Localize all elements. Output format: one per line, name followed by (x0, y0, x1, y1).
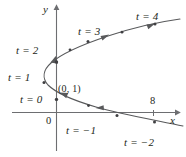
label-t-0: t = 0 (20, 94, 42, 105)
point-mid-1-2 (121, 31, 124, 34)
curve-direction-arrows (50, 23, 155, 110)
parametric-curve-figure: y x 0 8 (0, 1) t = 4 t = 3 t = 2 t = 1 t… (0, 0, 186, 157)
point-t-3 (87, 40, 90, 43)
point-annotation-0-1: (0, 1) (58, 84, 81, 94)
x-tick-label-8: 8 (150, 96, 155, 107)
label-t-2: t = 2 (16, 45, 38, 56)
point-t-minus-1 (116, 114, 119, 117)
curve-path (44, 19, 183, 126)
x-axis-label: x (170, 115, 175, 126)
point-mid-2-3 (87, 104, 90, 107)
label-t-3: t = 3 (78, 26, 100, 37)
label-t-1: t = 1 (8, 72, 30, 83)
point-mid-0-1 (69, 48, 72, 51)
origin-label: 0 (46, 116, 51, 127)
label-t-minus-2: t = −2 (124, 137, 154, 148)
point-t-minus-2 (153, 121, 156, 124)
point-t-4 (154, 23, 157, 26)
label-t-minus-1: t = −1 (66, 125, 96, 136)
label-t-4: t = 4 (136, 11, 158, 22)
point-t-0 (55, 98, 58, 101)
point-t-2 (55, 60, 58, 63)
y-axis-label: y (43, 4, 48, 15)
point-t-1 (43, 81, 46, 84)
